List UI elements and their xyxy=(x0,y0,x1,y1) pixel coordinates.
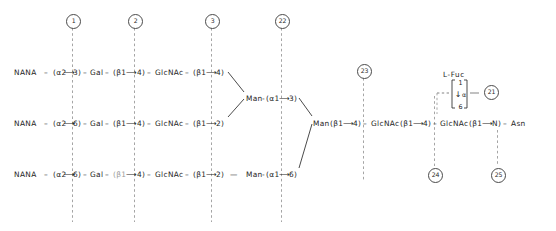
antenna-1-seg-20: (α1 xyxy=(266,171,280,178)
core-chain-seg-10: GlcNAc xyxy=(440,120,468,127)
antenna-3-seg-5: – xyxy=(83,69,87,76)
antenna-1-seg-5: – xyxy=(83,171,87,178)
antenna-1-seg-11: – xyxy=(147,171,151,178)
core-chain-seg-3: 4) xyxy=(353,120,361,127)
antenna-2-seg-10: 4) xyxy=(137,120,145,127)
l-fuc-label: L-Fuc xyxy=(443,70,465,79)
alpha-label: α xyxy=(462,92,467,98)
antenna-3-seg-14: (β1 xyxy=(193,69,206,76)
antenna-1-seg-1: – xyxy=(44,171,48,178)
core-chain-seg-9: – xyxy=(433,120,437,127)
antenna-2-seg-5: – xyxy=(83,120,87,127)
antenna-2-seg-14: (β1 xyxy=(193,120,206,127)
antenna-2-seg-7: – xyxy=(105,120,109,127)
core-chain-seg-15: Asn xyxy=(511,120,526,127)
antenna-3-seg-7: – xyxy=(105,69,109,76)
antenna-3-seg-4: 3) xyxy=(73,69,81,76)
antenna-3-seg-1: – xyxy=(44,69,48,76)
antenna-2-seg-1: – xyxy=(44,120,48,127)
antenna-1-seg-19: - xyxy=(262,171,265,178)
fucose-c1-number: 1 xyxy=(458,80,462,86)
fucose-anomeric-arrow: ↓α xyxy=(455,91,466,99)
core-chain-seg-8: 4) xyxy=(423,120,431,127)
man-alpha-1-3-seg-2: (α1 xyxy=(266,95,280,102)
core-chain-seg-6: (β1 xyxy=(400,120,413,127)
antenna-1-seg-8: (β1 xyxy=(113,171,126,178)
antenna-3-seg-6: Gal xyxy=(90,69,103,76)
core-chain-seg-11: (β1 xyxy=(469,120,482,127)
man-alpha-1-3-seg-1: - xyxy=(262,95,265,102)
fucose-linkage-box: 1 ↓α 6 xyxy=(454,80,467,110)
marker-25[interactable]: 25 xyxy=(491,168,506,183)
core-chain-seg-13: N) xyxy=(492,120,501,127)
marker-22[interactable]: 22 xyxy=(275,14,290,29)
core-chain-seg-1: (β1 xyxy=(330,120,343,127)
fucose-c6-number: 6 xyxy=(458,104,462,110)
core-chain-seg-14: – xyxy=(503,120,507,127)
antenna-1-seg-13: – xyxy=(185,171,189,178)
marker-23[interactable]: 23 xyxy=(357,64,372,79)
core-chain-seg-5: GlcNAc xyxy=(371,120,399,127)
antenna-3-seg-9: ⟶ xyxy=(126,69,137,76)
antenna-1-seg-14: (β1 xyxy=(193,171,206,178)
antenna-2-seg-12: GlcNAc xyxy=(155,120,183,127)
antenna-3-seg-8: (β1 xyxy=(113,69,126,76)
antenna-3-seg-16: 4) xyxy=(216,69,224,76)
marker-3[interactable]: 3 xyxy=(205,14,220,29)
antenna-3-seg-12: GlcNAc xyxy=(155,69,183,76)
man-alpha-1-3-seg-0: Man xyxy=(246,95,263,102)
marker-2[interactable]: 2 xyxy=(128,14,143,29)
core-chain-seg-0: Man xyxy=(313,120,330,127)
glycan-structure-diagram: 1232223242521 NANA–(α2⟶3)–Gal–(β1⟶4)–Glc… xyxy=(0,0,556,231)
antenna-1-seg-12: GlcNAc xyxy=(155,171,183,178)
antenna-3-seg-10: 4) xyxy=(137,69,145,76)
marker-1[interactable]: 1 xyxy=(66,14,81,29)
antenna-1-seg-16: 2) xyxy=(216,171,224,178)
antenna-1-seg-22: 6) xyxy=(289,171,297,178)
antenna-2-seg-8: (β1 xyxy=(113,120,126,127)
antenna-2-seg-6: Gal xyxy=(90,120,103,127)
antenna-2-seg-0: NANA xyxy=(14,120,37,127)
antenna-2-seg-11: – xyxy=(147,120,151,127)
antenna-3-seg-11: – xyxy=(147,69,151,76)
antenna-1-seg-18: Man xyxy=(246,171,263,178)
down-arrow-icon: ↓ xyxy=(455,91,462,99)
marker-21[interactable]: 21 xyxy=(484,85,499,100)
antenna-2-seg-4: 6) xyxy=(73,120,81,127)
antenna-2-seg-13: – xyxy=(185,120,189,127)
antenna-1-seg-6: Gal xyxy=(90,171,103,178)
connector-lines xyxy=(0,0,556,231)
antenna-1-seg-7: – xyxy=(105,171,109,178)
antenna-1-seg-0: NANA xyxy=(14,171,37,178)
antenna-3-seg-13: – xyxy=(185,69,189,76)
antenna-2-seg-16: 2) xyxy=(216,120,224,127)
antenna-1-seg-17: — xyxy=(230,171,238,178)
marker-24[interactable]: 24 xyxy=(428,168,443,183)
antenna-1-seg-4: 6) xyxy=(73,171,81,178)
man-alpha-1-3-seg-4: 3) xyxy=(289,95,297,102)
core-chain-seg-4: – xyxy=(363,120,367,127)
antenna-3-seg-0: NANA xyxy=(14,69,37,76)
antenna-1-seg-9: ⟶ xyxy=(126,171,137,178)
antenna-2-seg-9: ⟶ xyxy=(126,120,137,127)
antenna-1-seg-10: 4) xyxy=(137,171,145,178)
